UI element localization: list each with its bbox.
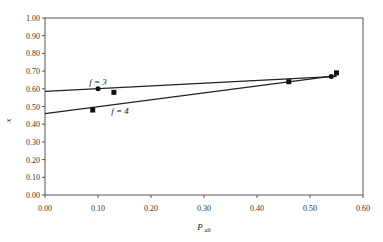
x-axis-title-main: P xyxy=(196,222,203,232)
x-tick-label: 0.40 xyxy=(250,204,264,213)
y-axis-title: x xyxy=(3,119,13,124)
y-tick-label: 0.30 xyxy=(26,138,40,147)
y-tick-label: 1.00 xyxy=(26,14,40,23)
x-axis-title-sub: ab xyxy=(205,227,211,233)
y-tick-label: 0.00 xyxy=(26,191,40,200)
y-tick-label: 0.90 xyxy=(26,32,40,41)
x-axis-title: Pab xyxy=(196,222,211,233)
x-tick-label: 0.50 xyxy=(303,204,317,213)
y-tick-label: 0.70 xyxy=(26,67,40,76)
x-tick-label: 0.00 xyxy=(38,204,52,213)
y-tick-label: 0.80 xyxy=(26,49,40,58)
x-tick-label: 0.30 xyxy=(197,204,211,213)
plot-frame xyxy=(45,18,363,195)
x-tick-label: 0.60 xyxy=(356,204,370,213)
series-label: f = 4 xyxy=(111,106,129,116)
series-label: f = 3 xyxy=(89,77,107,87)
annotations: f = 3f = 4 xyxy=(89,77,129,115)
chart: 0.000.100.200.300.400.500.600.700.800.90… xyxy=(0,0,383,242)
y-tick-label: 0.40 xyxy=(26,120,40,129)
data-point-square xyxy=(334,70,339,75)
axes xyxy=(45,18,363,195)
y-tick-label: 0.20 xyxy=(26,156,40,165)
y-tick-label: 0.50 xyxy=(26,103,40,112)
data-point-square xyxy=(90,108,95,113)
x-tick-label: 0.10 xyxy=(91,204,105,213)
data-point-circle xyxy=(329,74,334,79)
data-point-square xyxy=(111,90,116,95)
y-tick-label: 0.10 xyxy=(26,173,40,182)
x-ticks: 0.000.100.200.300.400.500.60 xyxy=(38,195,370,213)
y-tick-label: 0.60 xyxy=(26,85,40,94)
x-tick-label: 0.20 xyxy=(144,204,158,213)
data-point-square xyxy=(286,79,291,84)
y-ticks: 0.000.100.200.300.400.500.600.700.800.90… xyxy=(26,14,45,200)
